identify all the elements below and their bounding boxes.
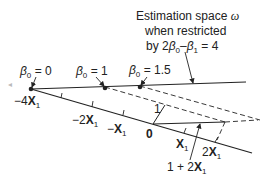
x1-axis-line — [31, 89, 252, 153]
left-mark: ◂ — [8, 80, 12, 89]
label-unit-vector: 1 — [154, 102, 161, 116]
label-1-plus-2x1: 1 + 2X1 — [167, 160, 207, 176]
caption-pointer — [185, 52, 193, 83]
one-plus-2x1-pointer — [190, 124, 200, 160]
label-minus2x1: −2X1 — [72, 113, 99, 129]
point-beta0-1 — [103, 86, 108, 91]
caption-line-1: Estimation space ω — [136, 9, 239, 23]
beta0-1.5-pointer — [141, 77, 147, 85]
caption-line-3: by 2β0–β1 = 4 — [146, 39, 219, 55]
caption-line-2: when restricted — [144, 24, 226, 38]
label-beta0-0: β0 = 0 — [19, 64, 52, 80]
label-x1: X1 — [176, 137, 189, 153]
one-plus-2x1-vector — [153, 122, 225, 124]
geometry-diagram: ◂ Estimation space ω when restricted by … — [0, 0, 271, 181]
point-beta0-0 — [29, 87, 34, 92]
label-beta0-1.5: β0 = 1.5 — [128, 63, 171, 79]
label-minusx1: −X1 — [107, 122, 127, 138]
beta0-1-pointer — [96, 77, 104, 86]
label-minus4x1: −4X1 — [14, 94, 41, 110]
label-2x1: 2X1 — [202, 145, 222, 161]
dashed-projection-lines — [105, 86, 260, 140]
label-origin: 0 — [146, 127, 153, 141]
point-beta0-1.5 — [138, 85, 143, 90]
beta0-0-pointer — [32, 77, 36, 87]
label-beta0-1: β0 = 1 — [75, 64, 108, 80]
diagram-canvas: ◂ Estimation space ω when restricted by … — [0, 0, 271, 181]
